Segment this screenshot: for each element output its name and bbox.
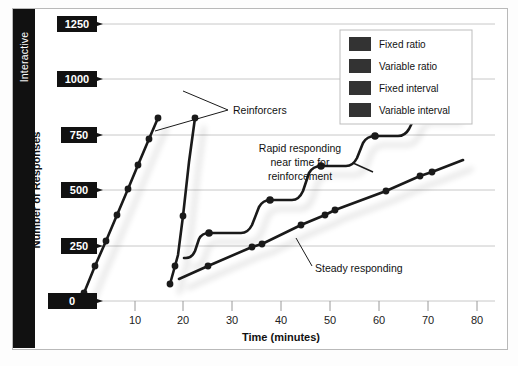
legend-item-fixed-interval[interactable]: Fixed interval <box>349 81 438 95</box>
annotation-reinforcers: Reinforcers <box>155 91 287 131</box>
legend-swatch <box>349 103 371 117</box>
y-tick-label: 750 <box>70 129 88 141</box>
chart-plot: Number of Responses <box>0 0 518 366</box>
legend-label: Fixed interval <box>379 83 438 94</box>
y-tick-1000: 1000 <box>57 71 103 87</box>
x-axis-title: Time (minutes) <box>242 331 320 343</box>
x-tick-label: 50 <box>324 314 336 326</box>
x-tick-label: 40 <box>275 314 287 326</box>
x-axis-ticks <box>135 301 477 311</box>
y-tick-label: 500 <box>70 184 88 196</box>
x-tick-label: 80 <box>471 314 483 326</box>
y-tick-label: 0 <box>69 295 75 307</box>
y-tick-0: 0 <box>48 293 103 309</box>
legend-item-fixed-ratio[interactable]: Fixed ratio <box>349 37 426 51</box>
y-tick-label: 1250 <box>65 18 89 30</box>
x-tick-label: 10 <box>129 314 141 326</box>
annotation-label: Reinforcers <box>233 104 287 116</box>
legend-item-variable-ratio[interactable]: Variable ratio <box>349 59 438 73</box>
annotation-steady-responding: Steady responding <box>296 238 403 274</box>
y-tick-500: 500 <box>61 182 103 198</box>
y-tick-250: 250 <box>61 238 103 254</box>
y-tick-1250: 1250 <box>57 16 103 32</box>
legend-label: Variable interval <box>379 105 450 116</box>
annotation-label-line3: reinforcement <box>268 170 332 182</box>
legend-swatch <box>349 59 371 73</box>
chart-legend: Fixed ratio Variable ratio Fixed interva… <box>340 30 472 124</box>
annotation-label: Steady responding <box>315 262 403 274</box>
x-tick-label: 60 <box>373 314 385 326</box>
figure-container: Interactive <box>0 0 518 366</box>
legend-label: Variable ratio <box>379 61 438 72</box>
x-tick-label: 30 <box>226 314 238 326</box>
legend-item-variable-interval[interactable]: Variable interval <box>349 103 450 117</box>
y-tick-750: 750 <box>61 127 103 143</box>
y-tick-label: 1000 <box>65 73 89 85</box>
legend-swatch <box>349 81 371 95</box>
annotation-label-line2: near time for <box>271 156 330 168</box>
legend-label: Fixed ratio <box>379 39 426 50</box>
x-tick-label: 20 <box>177 314 189 326</box>
x-tick-label: 70 <box>422 314 434 326</box>
y-axis-title: Number of Responses <box>30 132 42 249</box>
annotation-label-line1: Rapid responding <box>259 142 341 154</box>
y-tick-label: 250 <box>70 240 88 252</box>
legend-swatch <box>349 37 371 51</box>
